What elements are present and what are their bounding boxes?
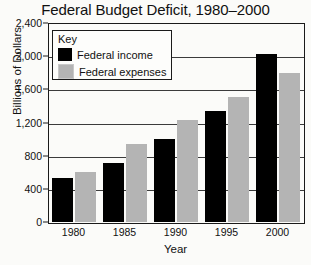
y-tick-label: 1,200 xyxy=(16,117,42,129)
legend-item-federal-income: Federal income xyxy=(58,46,171,63)
chart-legend: Key Federal income Federal expenses xyxy=(52,30,172,80)
x-tick-label: 1990 xyxy=(164,226,187,238)
x-tick-label: 1995 xyxy=(215,226,238,238)
chart-title: Federal Budget Deficit, 1980–2000 xyxy=(0,1,311,18)
gridline xyxy=(49,190,304,191)
x-axis-title: Year xyxy=(48,243,303,255)
x-tick-label: 1980 xyxy=(62,226,85,238)
x-tick-label: 2000 xyxy=(266,226,289,238)
gridline xyxy=(49,90,304,91)
legend-label-federal-income: Federal income xyxy=(77,49,153,61)
y-tick-label: 2,000 xyxy=(16,50,42,62)
y-tick-label: 2,400 xyxy=(16,17,42,29)
legend-item-federal-expenses: Federal expenses xyxy=(58,63,171,80)
y-tick-label: 0 xyxy=(36,216,42,228)
y-tick-label: 1,600 xyxy=(16,83,42,95)
gridline xyxy=(49,157,304,158)
legend-swatch-federal-income xyxy=(58,48,72,61)
legend-swatch-federal-expenses xyxy=(58,64,74,79)
y-axis-tick-labels: 04008001,2001,6002,0002,400 xyxy=(0,23,42,222)
x-axis-tick-labels: 19801985199019952000 xyxy=(48,226,303,242)
bar-chart: Federal Budget Deficit, 1980–2000 Billio… xyxy=(0,0,311,265)
legend-title: Key xyxy=(58,33,171,46)
y-tick-label: 400 xyxy=(24,183,42,195)
gridline xyxy=(49,124,304,125)
legend-label-federal-expenses: Federal expenses xyxy=(79,66,166,78)
x-tick-label: 1985 xyxy=(113,226,136,238)
y-tick-label: 800 xyxy=(24,150,42,162)
